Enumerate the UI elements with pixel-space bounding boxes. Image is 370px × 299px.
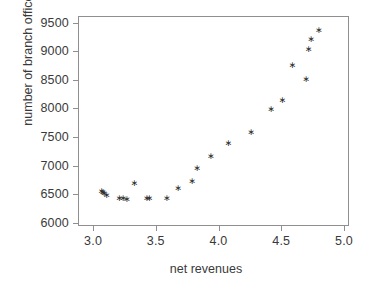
x-axis-tick-label: 3.5 (147, 234, 165, 248)
y-axis-tick-label: 7500 (40, 130, 69, 144)
x-axis-tick (281, 226, 282, 231)
x-axis-tick (156, 226, 157, 231)
data-point: ∗ (123, 196, 130, 203)
data-point: ∗ (207, 153, 214, 160)
x-axis-tick (93, 226, 94, 231)
y-axis-tick-label: 9500 (40, 16, 69, 30)
data-point: ∗ (193, 165, 200, 172)
data-point: ∗ (267, 106, 274, 113)
data-point: ∗ (289, 62, 296, 69)
y-axis-tick-label: 7000 (40, 159, 69, 173)
x-axis-label: net revenues (0, 262, 370, 276)
y-axis-tick-label: 8500 (40, 73, 69, 87)
data-point: ∗ (163, 195, 170, 202)
data-point: ∗ (279, 97, 286, 104)
plot-area: ∗∗∗∗∗∗∗∗∗∗∗∗∗∗∗∗∗∗∗∗∗∗∗∗ (78, 16, 349, 226)
scatter-chart-figure: 60006500700075008000850090009500 3.03.54… (0, 0, 370, 299)
data-point: ∗ (146, 195, 153, 202)
y-axis-tick-label: 8000 (40, 101, 69, 115)
data-point: ∗ (315, 27, 322, 34)
data-point: ∗ (305, 46, 312, 53)
y-axis-tick-label: 6000 (40, 216, 69, 230)
x-axis-tick-label: 4.5 (272, 234, 290, 248)
data-point: ∗ (175, 185, 182, 192)
y-axis-label: number of branch offices (21, 0, 35, 157)
x-axis-tick-label: 4.0 (210, 234, 228, 248)
x-axis-tick (344, 226, 345, 231)
data-point: ∗ (188, 178, 195, 185)
y-axis-tick-label: 6500 (40, 187, 69, 201)
x-axis-tick-label: 5.0 (335, 234, 353, 248)
y-axis-tick-label: 9000 (40, 44, 69, 58)
x-axis-tick (219, 226, 220, 231)
data-point: ∗ (303, 76, 310, 83)
data-point: ∗ (308, 36, 315, 43)
data-point: ∗ (103, 192, 110, 199)
x-axis-tick-label: 3.0 (84, 234, 102, 248)
data-points-layer: ∗∗∗∗∗∗∗∗∗∗∗∗∗∗∗∗∗∗∗∗∗∗∗∗ (79, 17, 348, 225)
x-axis-label-text: net revenues (128, 262, 242, 276)
data-point: ∗ (225, 140, 232, 147)
data-point: ∗ (131, 180, 138, 187)
data-point: ∗ (247, 129, 254, 136)
